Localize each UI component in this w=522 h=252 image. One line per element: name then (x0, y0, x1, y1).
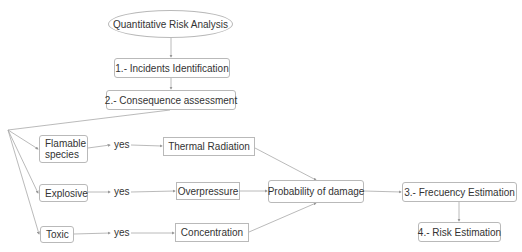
yes-label-toxic: yes (113, 227, 131, 238)
start-label: Quantitative Risk Analysis (113, 19, 228, 30)
incidents-identification-label: 1.- Incidents Identification (115, 63, 228, 74)
incidents-identification-node: 1.- Incidents Identification (114, 58, 230, 78)
consequence-assessment-node: 2.- Consequence assessment (106, 90, 236, 110)
probability-of-damage-node: Probability of damage (268, 180, 364, 203)
consequence-assessment-label: 2.- Consequence assessment (105, 95, 237, 106)
concentration-node: Concentration (175, 223, 249, 242)
risk-estimation-label: 4.- Risk Estimation (418, 227, 501, 238)
overpressure-label: Overpressure (178, 186, 239, 197)
toxic-label: Toxic (46, 229, 69, 240)
toxic-node: Toxic (40, 226, 74, 243)
start-node: Quantitative Risk Analysis (108, 10, 233, 38)
overpressure-node: Overpressure (176, 182, 240, 200)
thermal-radiation-node: Thermal Radiation (163, 137, 255, 156)
flamable-species-label: Flamable species (45, 138, 87, 160)
risk-estimation-node: 4.- Risk Estimation (418, 222, 501, 242)
explosive-node: Explosive (39, 184, 88, 202)
connector-lines (0, 0, 522, 252)
flamable-species-node: Flamable species (39, 135, 88, 163)
frequency-estimation-label: 3.- Frecuency Estimation (404, 187, 515, 198)
thermal-radiation-label: Thermal Radiation (168, 141, 250, 152)
concentration-label: Concentration (181, 227, 243, 238)
probability-of-damage-label: Probability of damage (268, 186, 365, 197)
yes-label-flamable: yes (113, 139, 131, 150)
explosive-label: Explosive (45, 188, 88, 199)
yes-label-explosive: yes (113, 186, 131, 197)
frequency-estimation-node: 3.- Frecuency Estimation (402, 182, 517, 202)
